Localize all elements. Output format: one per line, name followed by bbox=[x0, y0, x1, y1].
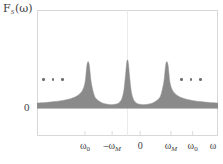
x-axis-label: ω bbox=[210, 140, 217, 151]
ellipsis-dot bbox=[42, 78, 45, 81]
y-axis-label-subscript: S bbox=[11, 8, 15, 16]
tick-subscript: M bbox=[115, 145, 121, 153]
y-axis-label-argument: (ω) bbox=[15, 2, 33, 15]
tick-symbol: ω bbox=[108, 140, 115, 151]
ellipsis-dot bbox=[190, 78, 193, 81]
spectral-density-figure: FS (ω) 0 ω0–ωM0ωMω0 ω bbox=[0, 0, 223, 164]
tick-subscript: M bbox=[171, 145, 177, 153]
y-axis-label: FS (ω) bbox=[3, 2, 33, 18]
tick-omega0-neg: ω0 bbox=[80, 140, 90, 155]
y-axis-label-main: F bbox=[3, 2, 11, 15]
tick-symbol: ω bbox=[165, 140, 172, 151]
tick-subscript: 0 bbox=[194, 145, 198, 153]
tick-omegaM-neg: –ωM bbox=[103, 140, 120, 155]
y-zero-tick-label: 0 bbox=[24, 101, 30, 113]
ellipsis-right bbox=[180, 78, 202, 81]
ellipsis-left bbox=[42, 78, 64, 81]
tick-zero: 0 bbox=[138, 140, 143, 151]
spectral-curve bbox=[37, 10, 218, 136]
tick-omega0-pos: ω0 bbox=[188, 140, 198, 155]
tick-symbol: ω bbox=[80, 140, 87, 151]
tick-subscript: 0 bbox=[87, 145, 91, 153]
ellipsis-dot bbox=[199, 78, 202, 81]
tick-symbol: 0 bbox=[138, 140, 143, 151]
ellipsis-dot bbox=[180, 78, 183, 81]
ellipsis-dot bbox=[52, 78, 55, 81]
tick-symbol: ω bbox=[188, 140, 195, 151]
ellipsis-dot bbox=[61, 78, 64, 81]
tick-omegaM-pos: ωM bbox=[165, 140, 177, 155]
